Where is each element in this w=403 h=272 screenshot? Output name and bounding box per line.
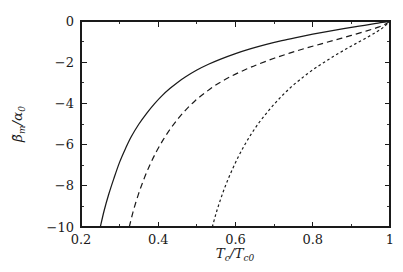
y-tick-label: 0 — [66, 14, 74, 29]
figure-root: 0.20.40.60.810−2−4−6−8−10 Tc/Tc0 β̃m/α0 — [0, 0, 403, 272]
x-title-sub2: c0 — [243, 253, 254, 263]
chart-canvas: 0.20.40.60.810−2−4−6−8−10 Tc/Tc0 β̃m/α0 — [0, 0, 403, 272]
y-tick-label: −2 — [55, 55, 74, 70]
y-tick-label: −6 — [55, 137, 74, 152]
y-title-subm: m — [17, 126, 27, 135]
x-tick-label: 0.4 — [148, 232, 169, 247]
y-title-beta: β̃ — [9, 134, 25, 143]
y-tick-label: −8 — [55, 178, 74, 193]
y-title-alpha: α — [9, 112, 25, 121]
x-tick-label: 1 — [386, 232, 394, 247]
y-title-sub0: 0 — [17, 106, 27, 112]
y-tick-label: −4 — [55, 96, 74, 111]
y-tick-label: −10 — [47, 220, 74, 235]
x-tick-label: 0.8 — [302, 232, 323, 247]
